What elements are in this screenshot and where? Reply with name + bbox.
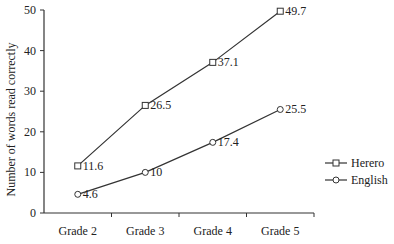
legend-label-herero: Herero: [351, 156, 384, 170]
circle-marker: [277, 106, 283, 112]
data-label: 26.5: [150, 98, 171, 112]
series-group: 11.626.537.149.74.61017.425.5: [75, 4, 307, 201]
data-label: 4.6: [83, 187, 98, 201]
y-tick-label: 20: [24, 125, 36, 139]
circle-marker: [75, 191, 81, 197]
y-tick-label: 30: [24, 84, 36, 98]
circle-marker: [210, 139, 216, 145]
data-label: 25.5: [285, 102, 306, 116]
y-tick-label: 10: [24, 165, 36, 179]
x-tick-label: Grade 3: [126, 224, 164, 238]
data-label: 11.6: [83, 159, 104, 173]
x-tick-label: Grade 4: [194, 224, 232, 238]
legend-square-icon: [333, 160, 339, 166]
y-tick-label: 40: [24, 44, 36, 58]
line-english: [78, 109, 281, 194]
data-label: 17.4: [218, 135, 239, 149]
line-chart: 01020304050Grade 2Grade 3Grade 4Grade 5N…: [0, 0, 394, 244]
x-tick-label: Grade 2: [59, 224, 97, 238]
legend-label-english: English: [351, 173, 388, 187]
legend: HereroEnglish: [325, 156, 388, 187]
circle-marker: [142, 169, 148, 175]
y-tick-label: 50: [24, 3, 36, 17]
y-tick-label: 0: [30, 206, 36, 220]
square-marker: [277, 8, 283, 14]
legend-circle-icon: [333, 177, 339, 183]
axes: 01020304050Grade 2Grade 3Grade 4Grade 5N…: [4, 3, 314, 238]
data-label: 37.1: [218, 55, 239, 69]
data-label: 10: [150, 165, 162, 179]
square-marker: [142, 102, 148, 108]
square-marker: [210, 59, 216, 65]
x-tick-label: Grade 5: [261, 224, 299, 238]
data-label: 49.7: [285, 4, 306, 18]
square-marker: [75, 163, 81, 169]
line-herero: [78, 11, 281, 166]
y-axis-label: Number of words read correctly: [4, 43, 18, 197]
